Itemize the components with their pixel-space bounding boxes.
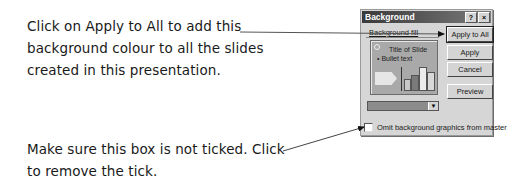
help-button[interactable]: ?	[465, 12, 477, 23]
omit-graphics-row[interactable]: Omit background graphics from master	[364, 123, 507, 132]
background-fill-label: Background fill	[369, 28, 418, 37]
close-button[interactable]: ×	[478, 12, 490, 23]
preview-bar	[427, 72, 435, 91]
callout-omit-checkbox: Make sure this box is not ticked. Click …	[27, 138, 285, 182]
preview-bar	[411, 75, 419, 91]
fill-color-dropdown[interactable]: ▼	[367, 101, 439, 111]
preview-arrow-shape-icon	[375, 72, 397, 85]
dialog-title: Background	[362, 12, 465, 22]
omit-graphics-checkbox[interactable]	[364, 123, 373, 132]
apply-button[interactable]: Apply	[447, 45, 493, 60]
preview-bar	[419, 67, 427, 91]
callout-line: Make sure this box is not ticked. Click	[27, 138, 285, 160]
callout-line: background colour to all the slides	[27, 37, 264, 59]
preview-chart-axis	[401, 67, 402, 91]
chevron-down-icon[interactable]: ▼	[428, 102, 438, 110]
preview-bar	[404, 79, 411, 91]
background-dialog: Background ? × Background fill Title of …	[360, 9, 493, 136]
preview-title: Title of Slide	[389, 46, 427, 53]
arrow-to-checkbox	[283, 127, 364, 151]
callout-line: created in this presentation.	[27, 59, 264, 81]
callout-line: Click on Apply to All to add this	[27, 15, 264, 37]
callout-apply-to-all: Click on Apply to All to add this backgr…	[27, 15, 264, 81]
preview-button[interactable]: Preview	[447, 84, 493, 99]
preview-dot-icon	[374, 44, 380, 50]
callout-line: to remove the tick.	[27, 160, 285, 182]
preview-bullet: • Bullet text	[377, 55, 412, 62]
omit-graphics-label[interactable]: Omit background graphics from master	[377, 123, 507, 132]
slide-preview: Title of Slide • Bullet text	[370, 40, 438, 95]
dialog-titlebar[interactable]: Background ? ×	[362, 11, 491, 23]
apply-to-all-button[interactable]: Apply to All	[447, 27, 493, 42]
cancel-button[interactable]: Cancel	[447, 62, 493, 77]
